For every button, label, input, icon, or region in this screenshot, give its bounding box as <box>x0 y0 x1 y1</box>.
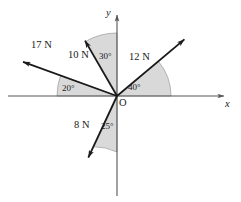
origin-label: O <box>119 98 127 109</box>
force-8n-label: 8 N <box>74 120 89 131</box>
sector-40-deg <box>117 61 171 96</box>
force-10n-label: 10 N <box>68 50 89 61</box>
force-17n-label: 17 N <box>31 40 52 51</box>
angle-25-deg-label: 25° <box>101 122 114 131</box>
angle-20-deg-label: 20° <box>62 84 75 93</box>
force-12n-label: 12 N <box>129 52 150 63</box>
angle-30-deg-label: 30° <box>99 52 112 61</box>
y-axis-label: y <box>106 8 111 19</box>
x-axis-label: x <box>225 99 230 110</box>
angle-40-deg-label: 40° <box>128 83 141 92</box>
force-vector-diagram: 17 N 10 N 12 N 8 N 20° 30° 40° 25° O x y <box>0 0 241 202</box>
